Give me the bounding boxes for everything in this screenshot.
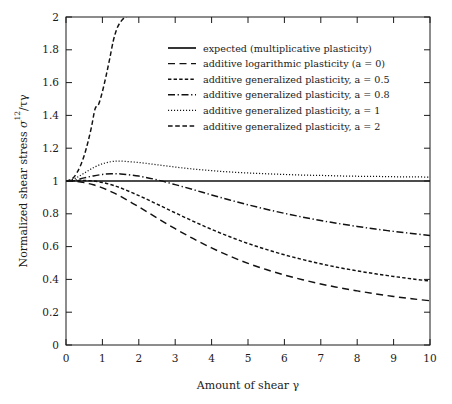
y-tick-label-2: 0.4 xyxy=(42,273,59,285)
y-tick-label-1: 0.2 xyxy=(42,306,59,318)
shear-stress-line-chart: 012345678910 00.20.40.60.811.21.41.61.82… xyxy=(0,0,452,404)
ylabel-prefix: Normalized shear stress xyxy=(17,128,30,268)
y-tick-label-8: 1.6 xyxy=(42,76,59,88)
x-tick-label-0: 0 xyxy=(63,352,70,364)
ylabel-superscript: 12 xyxy=(12,111,21,121)
legend-label-0: expected (multiplicative plasticity) xyxy=(203,43,372,54)
x-tick-label-6: 6 xyxy=(281,352,288,364)
y-tick-label-4: 0.8 xyxy=(42,207,59,219)
y-tick-label-3: 0.6 xyxy=(42,240,59,252)
y-tick-label-10: 2 xyxy=(52,11,59,23)
x-tick-label-9: 9 xyxy=(390,352,397,364)
y-tick-label-0: 0 xyxy=(52,339,59,351)
y-tick-label-7: 1.4 xyxy=(42,109,59,121)
x-tick-label-2: 2 xyxy=(135,352,142,364)
x-tick-label-7: 7 xyxy=(317,352,324,364)
y-tick-label-5: 1 xyxy=(52,175,59,187)
x-tick-label-4: 4 xyxy=(208,352,215,364)
legend-label-5: additive generalized plasticity, a = 2 xyxy=(203,121,380,132)
x-tick-label-3: 3 xyxy=(172,352,179,364)
x-tick-label-10: 10 xyxy=(423,352,436,364)
y-tick-label-9: 1.8 xyxy=(42,43,59,55)
y-tick-label-6: 1.2 xyxy=(42,142,59,154)
ylabel-suffix: /τγ xyxy=(17,94,30,111)
x-tick-label-5: 5 xyxy=(245,352,252,364)
x-tick-label-8: 8 xyxy=(354,352,361,364)
legend-label-3: additive generalized plasticity, a = 0.8 xyxy=(203,89,390,100)
x-tick-label-1: 1 xyxy=(99,352,106,364)
legend-label-2: additive generalized plasticity, a = 0.5 xyxy=(203,74,390,85)
legend-label-1: additive logarithmic plasticity (a = 0) xyxy=(203,58,385,69)
x-axis-label: Amount of shear γ xyxy=(196,379,300,392)
legend-label-4: additive generalized plasticity, a = 1 xyxy=(203,105,380,116)
chart-figure: 012345678910 00.20.40.60.811.21.41.61.82… xyxy=(0,0,452,404)
